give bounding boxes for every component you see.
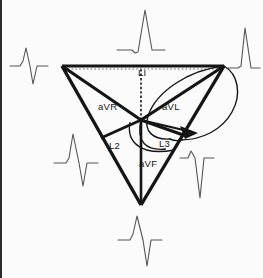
- lead-label-avl: aVL: [162, 101, 180, 112]
- lead-label-l1: LI: [138, 67, 147, 78]
- vector-loop-group: [141, 66, 238, 141]
- ecg-trace-group: [10, 10, 260, 266]
- lead-label-avr: aVR: [98, 101, 117, 112]
- lead-label-l3: L3: [159, 138, 170, 149]
- einthoven-triangle-figure: LI aVR aVL L2 L3 aVF: [0, 0, 263, 278]
- trace-bottom: [118, 216, 162, 266]
- trace-lower-right: [180, 151, 214, 198]
- trace-top: [117, 10, 165, 53]
- trace-lower-left: [54, 134, 98, 186]
- lead-label-l2: L2: [109, 140, 120, 151]
- trace-upper-left: [10, 48, 48, 84]
- lead-label-avf: aVF: [139, 158, 157, 169]
- axis-group: [62, 66, 224, 205]
- trace-upper-right: [228, 28, 260, 68]
- axis-lead-II: [101, 120, 141, 138]
- diagram-canvas: LI aVR aVL L2 L3 aVF: [2, 0, 263, 278]
- axis-aVL: [141, 66, 224, 120]
- triangle-group: [62, 66, 224, 205]
